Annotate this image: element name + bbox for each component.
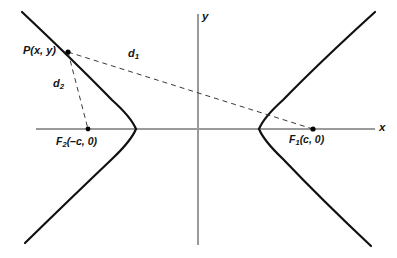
hyperbola-figure: y x P(x, y) d1 d2 F2(–c, 0) F1(c, 0) bbox=[0, 0, 397, 258]
point-p-label: P(x, y) bbox=[23, 45, 56, 56]
figure-canvas bbox=[0, 0, 397, 258]
f2-coords: (–c, 0) bbox=[67, 135, 97, 147]
focal-radius-d2-line bbox=[68, 52, 88, 129]
d2-subscript: 2 bbox=[60, 82, 64, 91]
point-p-marker bbox=[65, 49, 70, 54]
d1-letter: d bbox=[128, 47, 135, 59]
focus-f1-marker bbox=[310, 126, 315, 131]
focal-radius-d1-label: d1 bbox=[128, 48, 139, 61]
x-axis-label: x bbox=[379, 122, 385, 134]
d1-subscript: 1 bbox=[135, 52, 139, 61]
focal-radius-d1-line bbox=[68, 52, 313, 129]
focal-radius-d2-label: d2 bbox=[53, 78, 64, 91]
y-axis-label: y bbox=[202, 11, 208, 23]
focus-f2-marker bbox=[86, 127, 91, 132]
focus-f1-label: F1(c, 0) bbox=[289, 134, 324, 147]
f1-coords: (c, 0) bbox=[300, 133, 325, 145]
focus-f2-label: F2(–c, 0) bbox=[56, 136, 97, 149]
d2-letter: d bbox=[53, 77, 60, 89]
